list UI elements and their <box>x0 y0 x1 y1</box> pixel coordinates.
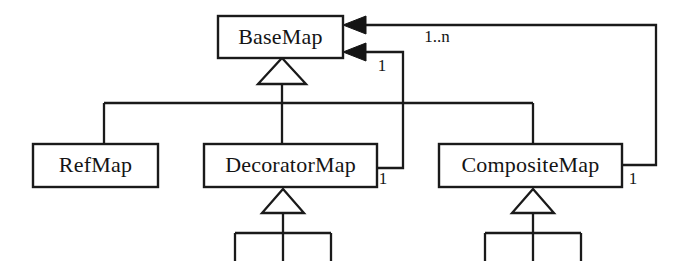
multiplicity-label-compositemap-target: 1..n <box>424 27 450 46</box>
association-compositemap-basemap <box>343 16 656 165</box>
generalization-triangle-basemap <box>258 58 306 84</box>
diagram-canvas: BaseMap RefMap DecoratorMap CompositeMap… <box>0 0 687 273</box>
generalization-basemap <box>104 58 533 144</box>
generalization-triangle-decoratormap <box>262 189 304 213</box>
class-name-refmap: RefMap <box>59 152 132 177</box>
class-name-decoratormap: DecoratorMap <box>225 152 356 177</box>
class-box-compositemap[interactable]: CompositeMap <box>439 144 622 187</box>
class-name-basemap: BaseMap <box>238 24 323 49</box>
association-arrowhead-compositemap <box>343 16 366 34</box>
generalization-decoratormap <box>235 189 331 261</box>
class-box-decoratormap[interactable]: DecoratorMap <box>204 144 377 187</box>
class-box-basemap[interactable]: BaseMap <box>218 16 343 58</box>
uml-class-diagram: BaseMap RefMap DecoratorMap CompositeMap… <box>0 0 687 273</box>
class-name-compositemap: CompositeMap <box>461 152 599 177</box>
multiplicity-label-decoratormap-target: 1 <box>378 56 387 75</box>
association-arrowhead-decoratormap <box>343 43 366 61</box>
class-box-refmap[interactable]: RefMap <box>33 144 158 187</box>
generalization-triangle-compositemap <box>512 189 554 213</box>
multiplicity-label-decoratormap-source: 1 <box>379 169 388 188</box>
generalization-compositemap <box>485 189 581 261</box>
multiplicity-label-compositemap-source: 1 <box>629 169 638 188</box>
